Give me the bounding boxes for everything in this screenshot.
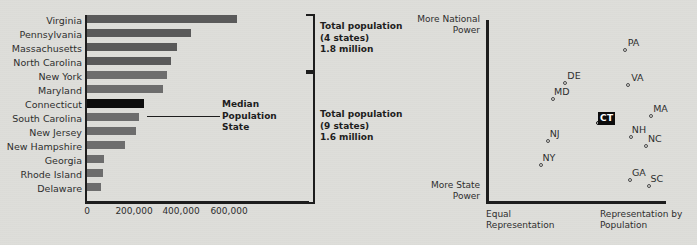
- bar-georgia: [87, 155, 104, 163]
- bar-new-jersey: [87, 127, 136, 135]
- bar-chart-x-axis: [85, 201, 309, 204]
- median-callout-line-2: Population: [222, 111, 277, 123]
- scatter-label-de: DE: [567, 71, 580, 81]
- x-left-label-line-1: Equal: [486, 209, 554, 220]
- scatter-x-axis-left-label: Equal Representation: [486, 209, 554, 231]
- scatter-label-sc: SC: [651, 174, 664, 184]
- scatter-x-axis-right-label: Representation by Population: [600, 209, 682, 231]
- median-callout-leader-line: [147, 116, 220, 117]
- y-bottom-label-line-1: More State: [400, 180, 480, 191]
- scatter-dot-de: [563, 81, 567, 85]
- y-top-label-line-1: More National: [400, 14, 480, 25]
- annotation-top-line-2: (4 states): [320, 33, 402, 45]
- bar-north-carolina: [87, 57, 171, 65]
- scatter-label-ct: CT: [598, 112, 615, 125]
- bar-label-maryland: Maryland: [38, 86, 82, 96]
- scatter-y-axis-bottom-label: More State Power: [400, 180, 480, 202]
- bar-label-new-york: New York: [38, 72, 82, 82]
- scatter-plot: More National Power More State Power Equ…: [400, 0, 697, 245]
- bar-label-new-jersey: New Jersey: [29, 128, 82, 138]
- y-bottom-label-line-2: Power: [400, 191, 480, 202]
- scatter-label-ny: NY: [542, 153, 555, 163]
- median-callout-line-1: Median: [222, 99, 277, 111]
- annotation-bottom-line-3: 1.6 million: [320, 132, 402, 144]
- scatter-label-pa: PA: [628, 38, 640, 48]
- scatter-dot-sc: [647, 184, 651, 188]
- bar-new-york: [87, 71, 167, 79]
- scatter-dot-pa: [623, 48, 627, 52]
- bar-south-carolina: [87, 113, 139, 121]
- x-tick-0: 0: [84, 206, 90, 216]
- annotation-top-four-states: Total population (4 states) 1.8 million: [320, 21, 402, 56]
- annotation-top-line-3: 1.8 million: [320, 44, 402, 56]
- bar-maryland: [87, 85, 163, 93]
- scatter-label-ma: MA: [653, 104, 668, 114]
- bar-label-rhode-island: Rhode Island: [20, 170, 82, 180]
- y-top-label-line-2: Power: [400, 25, 480, 36]
- scatter-label-md: MD: [554, 87, 570, 97]
- x-right-label-line-1: Representation by: [600, 209, 682, 220]
- scatter-label-nc: NC: [648, 134, 662, 144]
- scatter-dot-nc: [644, 144, 648, 148]
- annotation-top-line-1: Total population: [320, 21, 402, 33]
- x-tick-400000: 400,000: [162, 206, 199, 216]
- scatter-label-va: VA: [631, 73, 643, 83]
- infographic-page: Virginia Pennsylvania Massachusetts Nort…: [0, 0, 697, 245]
- bar-label-new-hampshire: New Hampshire: [7, 142, 82, 152]
- bracket-bottom-nine-states: [306, 72, 315, 204]
- scatter-label-nh: NH: [632, 125, 646, 135]
- bar-label-pennsylvania: Pennsylvania: [20, 30, 82, 40]
- bar-label-delaware: Delaware: [37, 184, 82, 194]
- scatter-y-axis: [486, 20, 489, 204]
- x-left-label-line-2: Representation: [486, 220, 554, 231]
- scatter-label-ga: GA: [632, 168, 646, 178]
- bar-connecticut: [87, 99, 144, 108]
- bar-new-hampshire: [87, 141, 125, 149]
- x-tick-200000: 200,000: [115, 206, 152, 216]
- scatter-x-axis: [486, 201, 666, 204]
- median-callout-label: Median Population State: [222, 99, 277, 134]
- median-callout-line-3: State: [222, 122, 277, 134]
- scatter-dot-md: [551, 97, 555, 101]
- bar-delaware: [87, 183, 101, 191]
- scatter-dot-ga: [628, 178, 632, 182]
- bar-label-virginia: Virginia: [46, 16, 82, 26]
- scatter-label-nj: NJ: [550, 129, 560, 139]
- x-right-label-line-2: Population: [600, 220, 682, 231]
- scatter-dot-ma: [649, 114, 653, 118]
- scatter-dot-ny: [539, 163, 543, 167]
- annotation-bottom-line-2: (9 states): [320, 121, 402, 133]
- bar-virginia: [87, 15, 237, 23]
- bar-label-georgia: Georgia: [45, 156, 82, 166]
- x-tick-600000: 600,000: [210, 206, 247, 216]
- scatter-y-axis-top-label: More National Power: [400, 14, 480, 36]
- annotation-bottom-nine-states: Total population (9 states) 1.6 million: [320, 109, 402, 144]
- bar-label-north-carolina: North Carolina: [13, 58, 82, 68]
- scatter-dot-nh: [629, 135, 633, 139]
- annotation-bottom-line-1: Total population: [320, 109, 402, 121]
- bar-pennsylvania: [87, 29, 191, 37]
- bar-massachusetts: [87, 43, 177, 51]
- bar-chart: Virginia Pennsylvania Massachusetts Nort…: [0, 0, 400, 245]
- bracket-top-four-states: [306, 14, 315, 72]
- scatter-dot-nj: [546, 139, 550, 143]
- bar-label-south-carolina: South Carolina: [12, 114, 82, 124]
- bar-label-massachusetts: Massachusetts: [12, 44, 82, 54]
- scatter-dot-va: [626, 83, 630, 87]
- bar-rhode-island: [87, 169, 103, 177]
- bar-label-connecticut: Connecticut: [25, 100, 82, 110]
